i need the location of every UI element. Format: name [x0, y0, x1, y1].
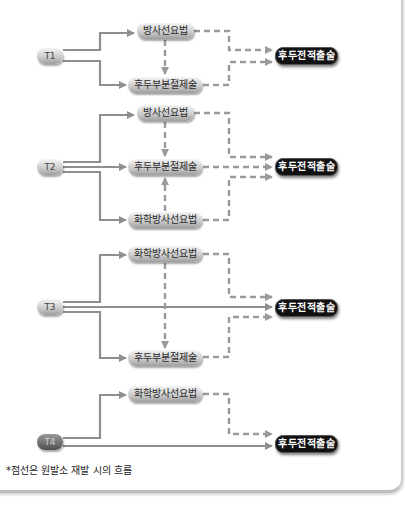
t2-chemoradiotherapy-node: 화학방사선요법 [128, 212, 202, 228]
stage-node-t4: T4 [37, 434, 63, 450]
t3-chemoradiotherapy-node: 화학방사선요법 [128, 246, 202, 262]
t1-partial-laryngectomy-node: 후두부분절제술 [128, 77, 202, 93]
t2-partial-laryngectomy-node: 후두부분절제술 [128, 159, 202, 175]
t2-radiotherapy-node: 방사선요법 [137, 105, 194, 121]
t2-total-laryngectomy-node: 후두전적출술 [275, 158, 338, 176]
flow-connectors [0, 0, 405, 505]
stage-node-t1: T1 [37, 48, 63, 64]
t4-chemoradiotherapy-node: 화학방사선요법 [128, 386, 202, 402]
t1-total-laryngectomy-node: 후두전적출술 [275, 47, 338, 65]
footnote-dashed-line-legend: *점선은 원발소 재발 시의 흐름 [6, 462, 132, 477]
t4-total-laryngectomy-node: 후두전적출술 [275, 435, 338, 453]
t3-partial-laryngectomy-node: 후두부분절제술 [128, 350, 202, 366]
stage-node-t2: T2 [37, 159, 63, 175]
t3-total-laryngectomy-node: 후두전적출술 [275, 299, 338, 317]
t1-radiotherapy-node: 방사선요법 [137, 23, 194, 39]
stage-node-t3: T3 [37, 299, 63, 315]
